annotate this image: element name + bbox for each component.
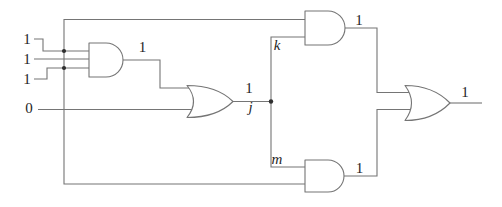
or2-output-label: 1 xyxy=(461,84,469,100)
input0-value-label: 0 xyxy=(25,100,33,116)
and2-output-label: 1 xyxy=(355,12,363,28)
junction-dot-input1 xyxy=(62,49,66,53)
wire-and1-to-or1 xyxy=(123,60,193,88)
or-gate-1 xyxy=(187,86,233,118)
and-gate-3 xyxy=(305,160,344,192)
and-gate-1 xyxy=(89,43,123,77)
or1-output-label: 1 xyxy=(245,80,253,96)
and1-output-label: 1 xyxy=(139,39,147,55)
circuit-diagram: 1 1 1 0 1 1 j k 1 m 1 1 xyxy=(0,0,502,207)
or-gate-2 xyxy=(405,86,450,121)
junction-dot-j xyxy=(269,99,273,103)
junction-dot-input3 xyxy=(62,66,66,70)
node-k-label: k xyxy=(274,37,281,53)
node-m-label: m xyxy=(272,151,283,167)
input2-value-label: 1 xyxy=(23,51,31,67)
and-gate-2 xyxy=(305,11,345,45)
and3-output-label: 1 xyxy=(356,160,364,176)
wire-and2-to-or2 xyxy=(345,28,413,93)
circuit-canvas: 1 1 1 0 1 1 j k 1 m 1 1 xyxy=(0,0,502,207)
input3-value-label: 1 xyxy=(23,71,31,87)
wire-and3-to-or2 xyxy=(344,110,413,177)
labels: 1 1 1 0 1 1 j k 1 m 1 1 xyxy=(23,12,469,176)
input1-value-label: 1 xyxy=(23,31,31,47)
